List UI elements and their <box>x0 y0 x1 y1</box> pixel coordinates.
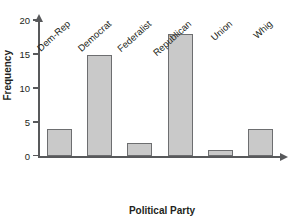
bar <box>87 55 112 157</box>
x-axis-line <box>38 156 280 158</box>
y-axis-tick: 15 <box>33 53 38 54</box>
plot-area: 05101520 Dem-RepDemocratFederalistRepubl… <box>38 14 286 158</box>
bar <box>208 150 233 157</box>
bar-chart-figure: Frequency 05101520 Dem-RepDemocratFedera… <box>0 0 306 223</box>
y-axis-tick: 0 <box>33 155 38 156</box>
x-axis-title: Political Party <box>38 205 286 216</box>
y-axis-title: Frequency <box>2 50 13 101</box>
bar-series <box>39 14 286 156</box>
bar <box>248 129 273 156</box>
bar <box>127 143 152 157</box>
y-axis-tick-label: 15 <box>19 48 30 59</box>
y-axis-tick: 5 <box>33 121 38 122</box>
y-axis-tick: 20 <box>33 19 38 20</box>
y-axis-tick-label: 5 <box>25 116 30 127</box>
y-axis-tick-label: 20 <box>19 15 30 26</box>
bar <box>168 34 193 156</box>
bar <box>47 129 72 156</box>
y-axis-tick: 10 <box>33 87 38 88</box>
y-axis-tick-label: 10 <box>19 82 30 93</box>
y-axis-tick-label: 0 <box>25 150 30 161</box>
